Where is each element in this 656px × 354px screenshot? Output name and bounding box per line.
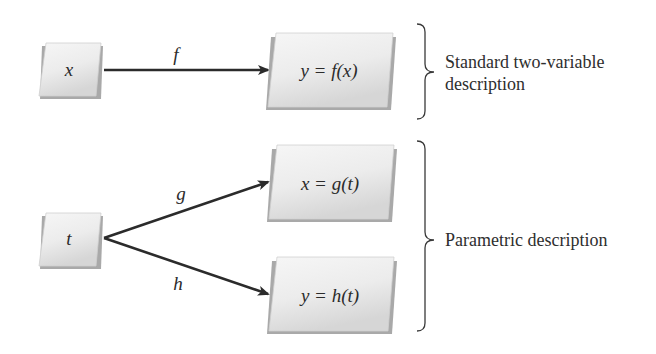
edge-h: h: [104, 238, 268, 294]
edge-g: g: [104, 182, 268, 238]
arrow-g-icon: [104, 182, 268, 238]
node-x-label: x: [64, 59, 74, 80]
edge-g-label: g: [176, 183, 186, 204]
standard-description-line1: Standard two-variable: [445, 51, 604, 73]
standard-description-line2: description: [445, 73, 604, 95]
parametric-description: Parametric description: [445, 229, 607, 251]
arrow-h-icon: [104, 238, 268, 294]
node-x: x: [39, 43, 103, 99]
node-y-equals-h-of-t: y = h(t): [267, 257, 397, 334]
edge-h-label: h: [173, 273, 183, 294]
node-x-equals-g-of-t: x = g(t): [267, 145, 397, 222]
node-xgt-label: x = g(t): [300, 173, 359, 195]
standard-description: Standard two-variable description: [445, 51, 604, 95]
edge-f: f: [104, 44, 268, 70]
node-yht-label: y = h(t): [299, 285, 359, 307]
edge-f-label: f: [173, 44, 181, 65]
brace-parametric-icon: [417, 141, 434, 331]
parametric-description-label: Parametric description: [445, 229, 607, 251]
node-t-label: t: [66, 228, 72, 249]
node-yfx-label: y = f(x): [298, 60, 357, 82]
node-t: t: [39, 213, 103, 269]
node-y-equals-f-of-x: y = f(x): [266, 33, 396, 110]
brace-standard-icon: [417, 24, 434, 119]
